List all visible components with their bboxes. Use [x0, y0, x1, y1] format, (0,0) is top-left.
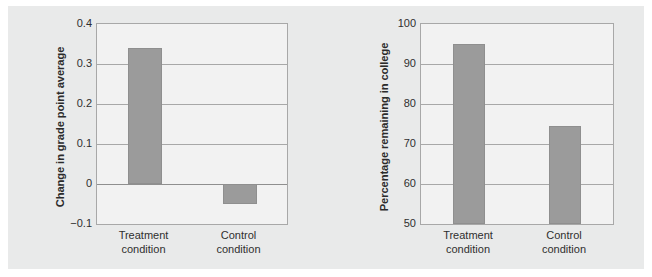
y-axis-tick-label: 90: [380, 57, 416, 69]
x-axis-category-label: Control condition: [216, 228, 260, 256]
bar-treatment: [128, 48, 162, 184]
gridline: [421, 104, 613, 105]
gridline: [97, 144, 287, 145]
figure-canvas: Change in grade point average 0.40.30.20…: [0, 0, 652, 277]
y-axis-tick-label: 0.1: [58, 137, 92, 149]
gridline: [421, 64, 613, 65]
y-axis-tick-label: 0.2: [58, 97, 92, 109]
x-axis-category-labels: Treatment conditionControl condition: [420, 228, 614, 262]
x-axis-category-label: Treatment condition: [119, 228, 169, 256]
x-axis-category-label: Treatment condition: [443, 228, 493, 256]
gridline: [421, 184, 613, 185]
y-axis-tick-labels: 0.40.30.20.10−0.1: [58, 23, 92, 225]
bar-control: [223, 184, 257, 204]
y-axis-tick-label: 60: [380, 177, 416, 189]
y-axis-tick-label: 0.4: [58, 17, 92, 29]
gridline: [97, 104, 287, 105]
y-axis-tick-label: 80: [380, 97, 416, 109]
y-axis-tick-label: 50: [380, 217, 416, 229]
y-axis-tick-label: 70: [380, 137, 416, 149]
x-axis-category-labels: Treatment conditionControl condition: [96, 228, 288, 262]
zero-baseline: [97, 184, 287, 185]
gridline: [421, 144, 613, 145]
bar-treatment: [453, 44, 485, 224]
gridline: [97, 64, 287, 65]
y-axis-tick-label: 0.3: [58, 57, 92, 69]
chart-grid: Change in grade point average 0.40.30.20…: [0, 0, 652, 277]
chart-gpa-change: Change in grade point average 0.40.30.20…: [0, 0, 326, 277]
y-axis-tick-label: −0.1: [58, 217, 92, 229]
y-axis-tick-labels: 1009080706050: [380, 23, 416, 225]
y-axis-tick-label: 0: [58, 177, 92, 189]
y-axis-tick-label: 100: [380, 17, 416, 29]
chart-college-retention: Percentage remaining in college 10090807…: [326, 0, 652, 277]
bar-control: [549, 126, 581, 224]
x-axis-category-label: Control condition: [542, 228, 586, 256]
plot-area: [96, 23, 288, 225]
plot-area: [420, 23, 614, 225]
